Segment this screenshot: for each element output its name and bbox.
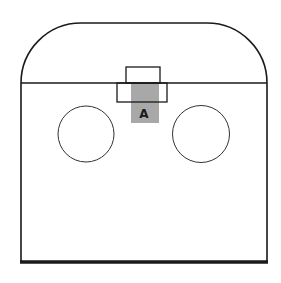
left-circle [58,106,114,162]
upper-small-box [126,67,160,83]
diagram-canvas: A [0,0,281,283]
right-circle [173,106,230,163]
label-a: A [139,107,149,121]
outer-enclosure [21,23,267,262]
